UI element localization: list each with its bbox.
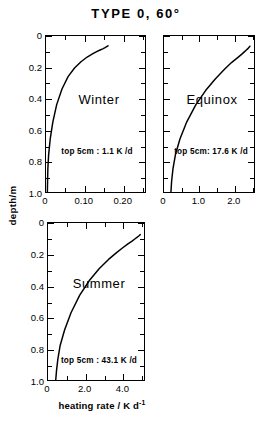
summer-ytick-0.4 [48,287,54,288]
ylabel-s-0.4: 0.4 [31,280,44,291]
winter-ytick-r-0.9 [141,178,145,179]
ylabel-0.4: 0.4 [29,93,42,104]
summer-ytick-r-0.1 [140,239,144,240]
winter-ytick-r-0.8 [139,162,145,163]
equinox-ytick-0.5 [164,115,168,116]
equinox-xtick-t-0.5 [182,36,183,40]
summer-ytick-0.0 [48,223,54,224]
summer-xtick-labels: 0 2.0 4.0 [47,383,145,397]
panel-equinox [163,35,255,193]
winter-panel-label: Winter [78,92,119,107]
winter-ytick-0.9 [46,178,50,179]
summer-ytick-0.8 [48,350,54,351]
equinox-xtick-2.0 [235,186,236,192]
winter-xtick-t-0.10 [85,36,86,42]
summer-ytick-0.6 [48,318,54,319]
winter-annotation: top 5cm : 1.1 K /d [61,147,132,156]
winter-xtick-0.25 [143,188,144,192]
summer-ytick-r-0.4 [138,287,144,288]
summer-xtick-5.0 [142,376,143,380]
ylabel-s-0.0: 0 [39,217,44,228]
summer-ytick-r-0.7 [140,334,144,335]
summer-ytick-r-0.8 [138,350,144,351]
winter-xtick-0.05 [65,188,66,192]
equinox-ytick-r-0.3 [250,83,254,84]
equinox-ytick-r-0.1 [250,52,254,53]
summer-xtick-1.0 [67,376,68,380]
ylabel-s-0.8: 0.8 [31,344,44,355]
ylabel-s-1.0: 1.0 [31,376,44,387]
xlabel-eq-0: 0 [160,195,165,206]
winter-ytick-r-0.2 [139,68,145,69]
winter-ytick-r-0.6 [139,131,145,132]
equinox-curve-svg [164,36,254,192]
equinox-ytick-0.4 [164,99,170,100]
ylabel-s-0.6: 0.6 [31,312,44,323]
equinox-ytick-0.2 [164,68,170,69]
equinox-ytick-0.9 [164,178,168,179]
winter-ytick-0.0 [46,36,52,37]
winter-xtick-labels: 0 0.10 0.20 [45,195,146,209]
winter-ytick-r-0.1 [141,52,145,53]
xlabel-su-2.0: 2.0 [78,383,91,394]
equinox-ytick-r-0.6 [248,131,254,132]
winter-ytick-r-0.3 [141,83,145,84]
winter-ytick-r-0.5 [141,115,145,116]
winter-ytick-0.4 [46,99,52,100]
winter-ytick-0.7 [46,147,50,148]
equinox-ytick-r-0.2 [248,68,254,69]
equinox-xtick-1.5 [217,188,218,192]
summer-ytick-r-0.3 [140,271,144,272]
equinox-xtick-2.5 [253,188,254,192]
xlabel-su-4.0: 4.0 [116,383,129,394]
xlabel-0.10: 0.10 [75,195,94,206]
winter-xtick-0.20 [124,186,125,192]
panel-winter [45,35,146,193]
equinox-ytick-r-0.9 [250,178,254,179]
winter-ytick-0.2 [46,68,52,69]
summer-ytick-0.2 [48,255,54,256]
xlabel-eq-2.0: 2.0 [227,195,240,206]
x-axis-title: heating rate / K d-1 [0,399,204,411]
winter-xtick-t-0.15 [104,36,105,40]
summer-ytick-0.9 [48,366,52,367]
figure-title: TYPE 0, 60° [0,6,272,21]
xlabel-su-0: 0 [44,383,49,394]
winter-curve [47,46,108,192]
ylabel-0.2: 0.2 [29,61,42,72]
equinox-xtick-t-1.5 [217,36,218,40]
xlabel-0: 0 [42,195,47,206]
equinox-ytick-0.8 [164,162,170,163]
summer-ytick-0.3 [48,271,52,272]
equinox-annotation: top 5cm: 17.6 K /d [174,147,248,156]
equinox-xtick-t-1.0 [199,36,200,42]
equinox-ytick-0.0 [164,36,170,37]
equinox-curve [171,46,250,192]
winter-ytick-r-0.7 [141,147,145,148]
summer-xtick-t-3.0 [105,223,106,227]
summer-xtick-3.0 [105,376,106,380]
winter-xtick-t-0.05 [65,36,66,40]
summer-xtick-2.0 [86,374,87,380]
summer-ytick-r-0.6 [138,318,144,319]
winter-ytick-0.8 [46,162,52,163]
summer-ytick-r-0.5 [140,303,144,304]
summer-annotation: top 5cm : 43.1 K /d [61,356,137,365]
equinox-ytick-r-0.4 [248,99,254,100]
equinox-xtick-t-2.0 [235,36,236,42]
equinox-xtick-0.5 [182,188,183,192]
xlabel-eq-1.0: 1.0 [192,195,205,206]
ylabel-s-0.2: 0.2 [31,248,44,259]
equinox-ytick-0.6 [164,131,170,132]
summer-xtick-t-5.0 [142,223,143,227]
winter-xtick-0.15 [104,188,105,192]
winter-ytick-r-0.4 [139,99,145,100]
winter-ytick-0.3 [46,83,50,84]
winter-ytick-0.6 [46,131,52,132]
winter-xtick-t-0.20 [124,36,125,42]
ylabel-0.8: 0.8 [29,156,42,167]
equinox-ytick-r-0.7 [250,147,254,148]
summer-ytick-0.7 [48,334,52,335]
ylabel-1.0: 1.0 [29,188,42,199]
summer-ytick-0.5 [48,303,52,304]
